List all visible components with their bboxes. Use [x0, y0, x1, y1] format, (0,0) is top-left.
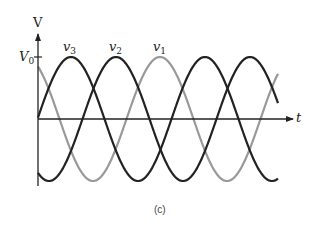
v0-label: V0 — [19, 49, 34, 66]
v3-label: v3 — [63, 39, 76, 56]
x-axis-label: t — [296, 110, 302, 125]
v1-label: v1 — [153, 39, 166, 56]
figure-caption: (c) — [154, 204, 166, 215]
three-phase-voltage-diagram: V t V0 v3 v2 v1 (c) — [0, 0, 316, 228]
y-axis-label: V — [32, 15, 43, 30]
v2-label: v2 — [109, 39, 122, 56]
